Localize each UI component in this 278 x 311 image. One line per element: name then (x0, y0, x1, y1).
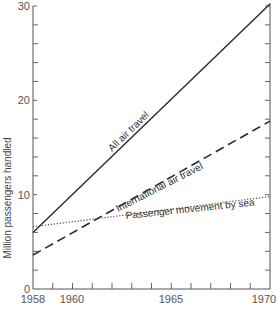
y-axis-title: Million passengers handled (2, 137, 13, 258)
x-tick-label-1970: 1970 (252, 293, 276, 305)
axes (33, 3, 270, 289)
y-tick-label-30: 30 (18, 0, 30, 12)
y-tick-label-10: 10 (18, 189, 30, 201)
x-tick-label-1965: 1965 (159, 293, 183, 305)
x-ticks (53, 283, 251, 289)
x-tick-label-1960: 1960 (60, 293, 84, 305)
x-tick-label-1958: 1958 (21, 293, 45, 305)
y-ticks-right (265, 6, 270, 270)
passenger-chart: 0 10 20 30 1958 1960 1965 1970 Million p… (0, 0, 278, 311)
series-label-all-air-travel: All air travel (106, 109, 151, 153)
y-tick-label-20: 20 (18, 94, 30, 106)
